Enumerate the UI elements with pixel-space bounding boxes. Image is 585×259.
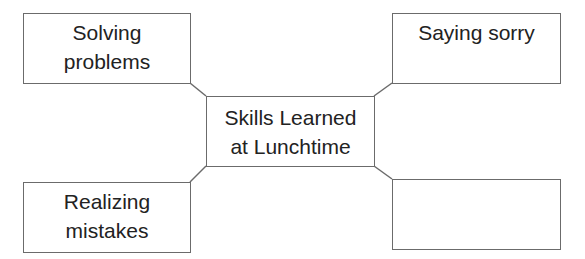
- node-text: problems: [24, 47, 190, 76]
- node-top-right: Saying sorry: [392, 13, 561, 84]
- connector-top-left: [190, 83, 206, 96]
- node-text: Realizing: [24, 187, 190, 216]
- node-text: mistakes: [24, 216, 190, 245]
- center-node: Skills Learned at Lunchtime: [206, 96, 375, 167]
- node-bottom-right-empty: [392, 179, 561, 250]
- node-bottom-left: Realizing mistakes: [23, 182, 191, 253]
- connector-bottom-right: [374, 166, 392, 179]
- center-title: Skills Learned: [207, 103, 374, 132]
- node-text: Saying sorry: [393, 18, 560, 47]
- connector-bottom-left: [190, 166, 206, 182]
- center-title: at Lunchtime: [207, 132, 374, 161]
- connector-top-right: [374, 83, 392, 96]
- node-text: Solving: [24, 18, 190, 47]
- node-top-left: Solving problems: [23, 13, 191, 84]
